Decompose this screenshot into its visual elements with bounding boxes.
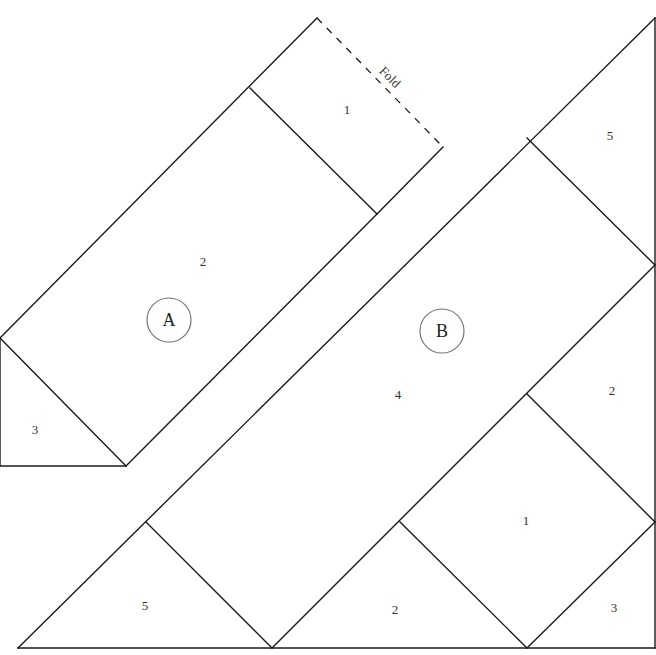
section-a-piece-number: 3 <box>32 422 39 437</box>
piece-numbers: 1235241523 <box>32 102 618 617</box>
section-a-outline-top-left <box>0 18 317 338</box>
section-b-seam-5-top <box>527 138 655 265</box>
section-b-piece-number: 5 <box>142 598 149 613</box>
section-label: A <box>163 310 176 330</box>
section-b-seam-2-left <box>400 522 527 648</box>
section-b-outline-diagonal <box>18 18 655 648</box>
fold-line <box>317 18 443 147</box>
quilt-pattern-diagram: Fold 1235241523 AB <box>0 0 656 655</box>
section-a-edge-to-fold <box>377 147 443 214</box>
fold-line-group: Fold <box>317 18 443 147</box>
section-b-seam-3 <box>527 522 655 648</box>
section-b-piece-number: 2 <box>609 383 616 398</box>
section-b-piece-number: 3 <box>611 600 618 615</box>
section-b-seam-5-bottom <box>146 522 272 648</box>
section-b-piece-number: 1 <box>523 513 530 528</box>
section-a-piece-number: 1 <box>344 102 351 117</box>
section-a-piece-2-3-seam <box>0 338 126 466</box>
section-a-piece-1-2-seam <box>250 88 377 214</box>
section-b-badge: B <box>420 309 464 353</box>
fold-label: Fold <box>376 63 404 91</box>
seam-lines <box>0 18 655 648</box>
section-b-piece-number: 4 <box>395 387 402 402</box>
section-b-piece-number: 2 <box>392 602 399 617</box>
section-b-seam-4-right <box>272 265 655 648</box>
section-badges: AB <box>147 298 464 353</box>
section-a-badge: A <box>147 298 191 342</box>
section-b-seam-1-top <box>527 394 655 522</box>
section-a-piece-number: 2 <box>200 254 207 269</box>
section-label: B <box>436 321 448 341</box>
section-b-piece-number: 5 <box>607 128 614 143</box>
